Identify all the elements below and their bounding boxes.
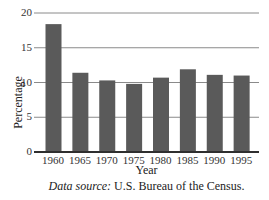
y-tick-label: 20 bbox=[12, 7, 32, 18]
bar-1980 bbox=[153, 78, 169, 152]
bar-1970 bbox=[99, 80, 115, 152]
bar-1985 bbox=[180, 69, 196, 152]
x-axis-label: Year bbox=[0, 163, 269, 178]
data-source-label: Data source: bbox=[49, 179, 112, 193]
bar-1990 bbox=[207, 75, 223, 152]
bar-1965 bbox=[72, 73, 88, 152]
bar-1975 bbox=[126, 84, 142, 152]
bar-chart: 05101520 1960196519701975198019851990199… bbox=[0, 0, 269, 200]
data-source-caption: Data source: U.S. Bureau of the Census. bbox=[0, 179, 269, 194]
data-source-text: U.S. Bureau of the Census. bbox=[114, 179, 244, 193]
y-axis-label: Percentage bbox=[11, 73, 26, 133]
y-tick-label: 15 bbox=[12, 42, 32, 53]
bar-1960 bbox=[46, 24, 62, 152]
y-tick-label: 0 bbox=[12, 146, 32, 157]
bar-1995 bbox=[234, 76, 250, 152]
